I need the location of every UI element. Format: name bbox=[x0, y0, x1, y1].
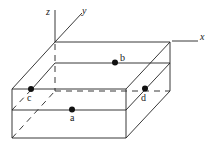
point-d-label: d bbox=[141, 92, 146, 103]
point-a-label: a bbox=[70, 112, 75, 123]
point-b bbox=[112, 60, 118, 66]
mid-right-line bbox=[126, 63, 170, 110]
box-diagram: z y x a b c d bbox=[0, 0, 215, 144]
y-axis bbox=[55, 13, 82, 42]
point-d bbox=[142, 86, 148, 92]
top-right-edge bbox=[126, 42, 170, 89]
z-axis-label: z bbox=[45, 6, 50, 17]
y-axis-label: y bbox=[81, 5, 87, 16]
x-axis-label: x bbox=[199, 31, 205, 42]
point-c-label: c bbox=[27, 92, 32, 103]
bottom-right-edge bbox=[126, 91, 170, 138]
mid-left-line-visible bbox=[32, 63, 55, 89]
point-b-label: b bbox=[120, 52, 125, 63]
top-left-edge bbox=[12, 42, 55, 89]
coordinate-axes: z y x bbox=[45, 5, 205, 42]
hidden-bottom-left-edge bbox=[12, 91, 55, 138]
